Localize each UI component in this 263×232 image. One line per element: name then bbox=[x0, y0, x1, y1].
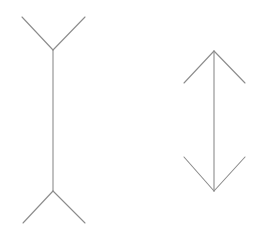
fin-line bbox=[214, 51, 245, 83]
fin-line bbox=[214, 157, 245, 191]
fin-line bbox=[22, 17, 53, 50]
fin-line bbox=[184, 51, 214, 83]
fin-line bbox=[53, 191, 85, 223]
muller-lyer-diagram bbox=[0, 0, 263, 232]
fins-out-figure bbox=[22, 17, 85, 223]
fins-in-figure bbox=[184, 51, 245, 191]
illusion-canvas bbox=[0, 0, 263, 232]
fin-line bbox=[23, 191, 53, 223]
fin-line bbox=[53, 17, 85, 50]
fin-line bbox=[184, 157, 214, 191]
